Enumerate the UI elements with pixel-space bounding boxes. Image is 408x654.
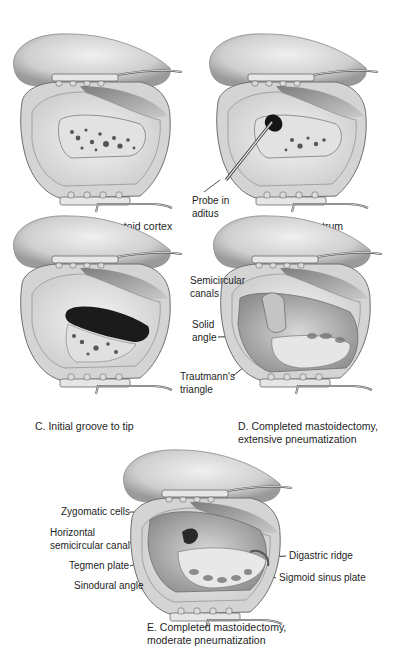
panel-e bbox=[110, 440, 310, 620]
label-digastric-ridge: Digastric ridge bbox=[289, 550, 353, 563]
antrum-opening-illustration bbox=[196, 20, 406, 220]
label-sinodural-angle: Sinodural angle bbox=[74, 580, 144, 593]
label-sigmoid-sinus-plate: Sigmoid sinus plate bbox=[279, 572, 366, 585]
mastoid-cortex-illustration bbox=[0, 20, 200, 220]
label-horizontal-semicircular-canal: Horizontal semicircular canal bbox=[50, 527, 130, 552]
label-tegmen-plate: Tegmen plate bbox=[69, 560, 129, 573]
label-semicircular-canals: Semicircular canals bbox=[190, 275, 245, 300]
initial-groove-illustration bbox=[0, 238, 200, 408]
moderate-pneumatization-illustration bbox=[110, 440, 310, 620]
label-solid-angle: Solid angle bbox=[192, 319, 216, 344]
caption-e: E. Completed mastoidectomy, moderate pne… bbox=[147, 621, 286, 647]
panel-b bbox=[196, 20, 406, 220]
label-probe-in-aditus: Probe in aditus bbox=[192, 195, 229, 220]
label-trautmanns-triangle: Trautmann's triangle bbox=[180, 371, 235, 396]
caption-c: C. Initial groove to tip bbox=[35, 420, 134, 433]
label-zygomatic-cells: Zygomatic cells bbox=[61, 506, 130, 519]
panel-a bbox=[0, 20, 200, 220]
panel-c bbox=[0, 238, 200, 408]
